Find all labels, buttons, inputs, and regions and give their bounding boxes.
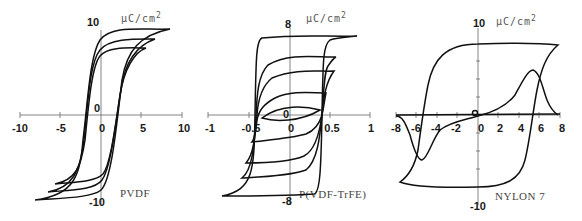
material-name: PVDF: [120, 187, 150, 199]
x-tick-label: 0.5: [324, 122, 339, 134]
panel-pvdf-trfe: -1 -0.5 0 0.5 1 8 0 -8 μC/cm2 P(VDF-TrFE…: [205, 11, 374, 207]
x-tick-label: -1: [205, 122, 215, 134]
x-tick-label: -6: [411, 122, 421, 134]
x-tick-label: 2: [497, 122, 503, 134]
hysteresis-loop-5: [222, 36, 357, 196]
y-tick-label-zero: 0: [283, 108, 289, 120]
figure: -10 -5 0 5 10 10 0 -10 μC/cm2 PVDF -1 -0…: [0, 0, 582, 221]
unit-label: μC/cm2: [496, 14, 537, 27]
x-tick-label: -10: [12, 122, 28, 134]
x-tick-label: 8: [559, 122, 565, 134]
y-tick-label-zero: 0: [94, 102, 100, 114]
x-tick-label: 4: [518, 122, 525, 134]
hysteresis-loop-1: [55, 48, 146, 184]
x-tick-label: 0: [478, 122, 484, 134]
y-tick-label-bottom: -10: [470, 200, 486, 212]
x-tick-label: -4: [431, 122, 442, 134]
x-tick-label: 0: [99, 122, 105, 134]
y-tick-label-bottom: -10: [89, 196, 105, 208]
hysteresis-loop-2: [48, 39, 155, 192]
x-tick-label: 10: [178, 122, 190, 134]
y-tick-label-bottom: -8: [282, 195, 292, 207]
x-tick-label: -8: [391, 122, 401, 134]
panel-nylon-7: -8 -6 -4 -2 0 2 4 6 8 10 -10 μC/cm2 NYLO…: [391, 14, 565, 212]
x-tick-label: 5: [140, 122, 146, 134]
x-tick-label: 0: [288, 122, 294, 134]
material-name: NYLON 7: [495, 190, 545, 202]
unit-label: μC/cm2: [121, 11, 162, 24]
panel-pvdf: -10 -5 0 5 10 10 0 -10 μC/cm2 PVDF: [12, 11, 190, 208]
y-tick-label-top: 10: [473, 17, 485, 29]
x-tick-label: -0.5: [242, 122, 261, 134]
hysteresis-loop-1: [262, 107, 320, 120]
y-tick-label-top: 10: [87, 16, 99, 28]
unit-label: μC/cm2: [306, 11, 347, 24]
origin-marker: [473, 111, 478, 116]
x-tick-label: -5: [56, 122, 66, 134]
x-tick-label: 1: [368, 122, 374, 134]
x-tick-label: 6: [538, 122, 544, 134]
y-tick-label-top: 8: [285, 18, 291, 30]
